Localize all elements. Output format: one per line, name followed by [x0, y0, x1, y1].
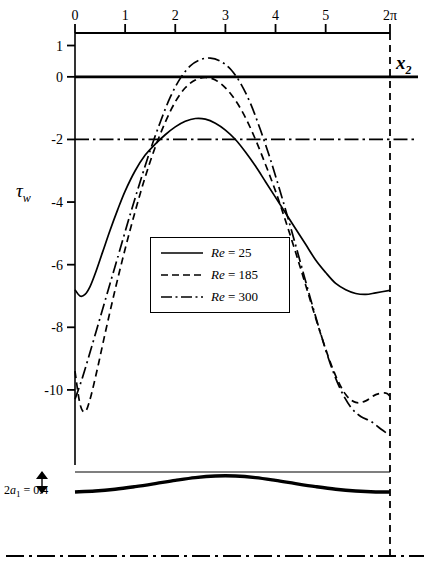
- y-tick-label-5: -8: [51, 320, 63, 335]
- legend-re-symbol-3: Re: [211, 289, 225, 304]
- x-tick-label-1: 1: [122, 8, 129, 23]
- amplitude-annotation: 2a1 = 0.4: [4, 483, 48, 499]
- legend-re25-value: = 25: [225, 245, 252, 260]
- y-tick-label-0: 1: [56, 39, 63, 54]
- y-tick-label-1: 0: [56, 70, 63, 85]
- x-axis-label-symbol: x: [396, 52, 406, 73]
- legend-box: Re = 25 Re = 185 Re = 300: [150, 237, 290, 313]
- legend-re-symbol: Re: [211, 245, 225, 260]
- legend-entry-re300: Re = 300: [211, 289, 258, 305]
- x-tick-label-4: 4: [272, 8, 279, 23]
- legend-re185-value: = 185: [225, 267, 258, 282]
- y-axis-label: τw: [16, 180, 31, 206]
- y-tick-label-6: -10: [44, 383, 63, 398]
- legend-entry-re185: Re = 185: [211, 267, 258, 283]
- x-tick-label-0: 0: [72, 8, 79, 23]
- x-tick-label-2: 2: [172, 8, 179, 23]
- x-axis-label-subscript: 2: [406, 63, 412, 77]
- amplitude-value: = 0.4: [21, 483, 49, 497]
- figure-root: 0123452π10-2-4-6-8-10 Re = 25 Re = 185 R…: [0, 0, 430, 566]
- legend-re-symbol-2: Re: [211, 267, 225, 282]
- x-tick-label-3: 3: [222, 8, 229, 23]
- legend-entry-re25: Re = 25: [211, 245, 252, 261]
- legend-re300-value: = 300: [225, 289, 258, 304]
- y-tick-label-2: -2: [51, 132, 63, 147]
- x-axis-label: x2: [396, 52, 412, 78]
- x-tick-label-5: 5: [322, 8, 329, 23]
- y-tick-label-3: -4: [51, 195, 63, 210]
- y-axis-label-subscript: w: [23, 191, 31, 205]
- y-tick-label-4: -6: [51, 258, 63, 273]
- x-tick-label-6: 2π: [383, 8, 397, 23]
- y-axis-label-symbol: τ: [16, 180, 23, 201]
